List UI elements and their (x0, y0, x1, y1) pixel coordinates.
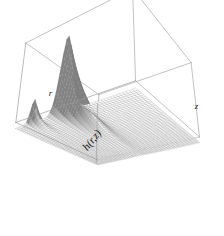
x-axis-label: r (49, 88, 53, 98)
perspective-surface-svg: h(r,z) r z (0, 0, 224, 236)
surface-plot-figure: h(r,z) r z (0, 0, 224, 236)
y-axis-label: z (194, 101, 199, 111)
